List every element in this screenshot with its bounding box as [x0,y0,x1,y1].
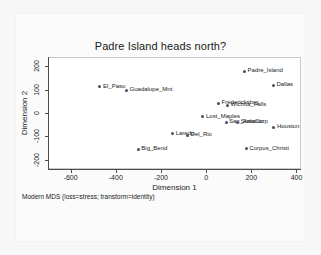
scatter-point-label: Big_Bend [141,145,167,151]
chart-title: Padre Island heads north? [0,40,321,52]
x-tick [296,170,297,173]
scatter-point [137,148,140,151]
y-tick [45,66,48,67]
scatter-point [226,104,229,107]
x-tick-label: -600 [64,174,78,181]
scatter-point-label: Corpus_Christi [249,145,289,151]
y-axis-line [48,57,49,169]
scatter-point [217,102,220,105]
y-tick [45,90,48,91]
scatter-point-label: Guadalupe_Mnt [130,86,173,92]
y-tick [45,136,48,137]
scatter-point [243,70,246,73]
scatter-point [186,134,189,137]
scatter-point-label: StataCorp [241,118,268,124]
scatter-point-label: Del_Rio [191,131,212,137]
x-axis-label: Dimension 1 [48,183,301,192]
y-tick-label: -200 [33,153,40,167]
x-tick-label: -200 [154,174,168,181]
scatter-point-label: Padre_Island [248,67,283,73]
x-tick [206,170,207,173]
x-tick-label: 400 [291,174,303,181]
scatter-point-label: Wichita_Falls [231,101,267,107]
y-tick-label: 100 [33,84,40,96]
y-tick-label: 200 [33,60,40,72]
scatter-point-label: El_Paso [103,83,125,89]
y-tick-label: 0 [33,111,40,115]
chart-caption: Modern MDS (loss=stress; transform=ident… [22,193,155,200]
y-axis-label: Dimension 2 [20,91,29,135]
scatter-point-label: Houston [277,123,299,129]
scatter-point [125,89,128,92]
x-tick-label: -400 [109,174,123,181]
y-tick [45,113,48,114]
x-tick [116,170,117,173]
scatter-point-label: Dallas [276,81,293,87]
x-tick-label: 200 [245,174,257,181]
scatter-point [225,121,228,124]
y-tick [45,160,48,161]
x-tick-label: 0 [204,174,208,181]
y-tick-label: -100 [33,129,40,143]
plot-area [48,57,301,169]
screenshot-root: Padre Island heads north? -600-400-20002… [0,0,321,255]
x-tick [251,170,252,173]
scatter-point [272,84,275,87]
x-tick [71,170,72,173]
x-axis-line [48,169,301,170]
x-tick [161,170,162,173]
